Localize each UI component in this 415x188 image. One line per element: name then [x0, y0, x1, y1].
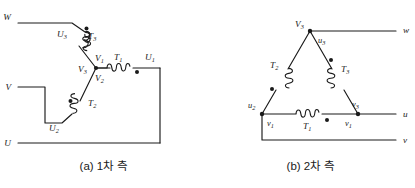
- neutral-V3-label: V3: [78, 64, 87, 75]
- apex-u3-label: u3: [318, 36, 325, 46]
- neutral-V2-label: V2: [95, 73, 105, 84]
- left-u2-label: u2: [248, 101, 256, 111]
- transformer-connection-figure: W V U U3 U2 U1 V1 V2 V3 T1 T2 T3: [0, 0, 415, 188]
- polarity-dot-T1: [135, 70, 139, 74]
- coil-T3-spring: [327, 68, 335, 88]
- end-U1-label: U1: [145, 52, 155, 63]
- polarity-dot-T2-secondary: [270, 87, 274, 91]
- right-corner-node-dot: [356, 112, 360, 116]
- winding-T1-label-secondary: T1: [303, 121, 311, 132]
- coil-T2-secondary: [285, 68, 293, 88]
- terminal-U-label: U: [4, 138, 12, 148]
- coil-T3-secondary: [327, 68, 335, 88]
- right-v1-label: v1: [345, 119, 352, 129]
- terminal-u-label: u: [403, 109, 408, 119]
- coil-T1-secondary: [296, 110, 319, 118]
- terminal-v-label: v: [403, 135, 408, 145]
- winding-T3-label: T3: [88, 31, 96, 42]
- wire-V-to-U2: [18, 87, 72, 123]
- terminal-V-label: V: [5, 82, 12, 92]
- caption-primary-side: (a) 1차 측: [0, 157, 208, 173]
- left-v1-label: v1: [267, 119, 274, 129]
- coil-T2-spring: [285, 68, 293, 88]
- end-U3-label: U3: [57, 29, 67, 40]
- polarity-dot-T1-secondary: [325, 118, 329, 122]
- left-corner-node-dot: [260, 112, 264, 116]
- end-U2-label: U2: [49, 123, 60, 134]
- coil-T2-primary: [70, 94, 78, 114]
- coil-T1-spring: [107, 64, 130, 72]
- coil-T1-primary: [107, 64, 130, 72]
- polarity-dot-T2: [69, 99, 73, 103]
- neutral-junction-dot: [94, 66, 98, 70]
- right-v3-label: v3: [352, 100, 359, 110]
- secondary-side-group: w u v V3 u3 u2 v1 v3 v1 T2 T3 T1: [248, 19, 410, 145]
- winding-T3-label-secondary: T3: [341, 64, 349, 75]
- wire-W-to-U3: [18, 23, 85, 32]
- wire-right-leg-lower: [344, 90, 358, 114]
- winding-T2-label-secondary: T2: [270, 60, 279, 71]
- wire-left-leg-lower: [262, 90, 276, 114]
- apex-V3-label: V3: [295, 19, 304, 30]
- wire-left-leg-upper: [288, 31, 310, 69]
- caption-secondary-side: (b) 2차 측: [207, 157, 415, 173]
- coil-T1-spring: [296, 110, 319, 118]
- primary-side-group: W V U U3 U2 U1 V1 V2 V3 T1 T2 T3: [3, 12, 160, 148]
- terminal-w-label: w: [403, 25, 410, 35]
- coil-T2-spring: [70, 94, 78, 114]
- polarity-dot-T3-secondary: [329, 58, 333, 62]
- winding-T1-label: T1: [114, 52, 122, 63]
- winding-T2-label: T2: [88, 98, 97, 109]
- polarity-dot-T3: [85, 27, 89, 31]
- neutral-V1-label: V1: [95, 53, 104, 64]
- terminal-W-label: W: [3, 12, 12, 22]
- wire-left-corner-to-v: [262, 114, 396, 140]
- apex-node-dot: [308, 29, 312, 33]
